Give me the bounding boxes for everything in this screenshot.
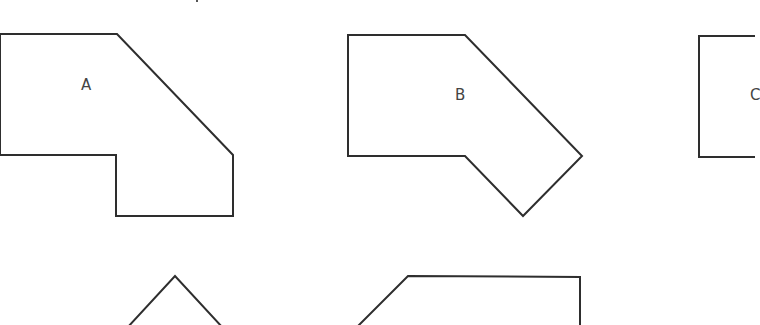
shape-e-outline	[356, 276, 580, 325]
shape-a-outline	[0, 34, 233, 216]
shape-c-outline	[699, 36, 755, 157]
shape-b-outline	[348, 35, 582, 216]
shape-d-outline	[127, 276, 223, 325]
text-fragment-mark	[196, 0, 198, 2]
